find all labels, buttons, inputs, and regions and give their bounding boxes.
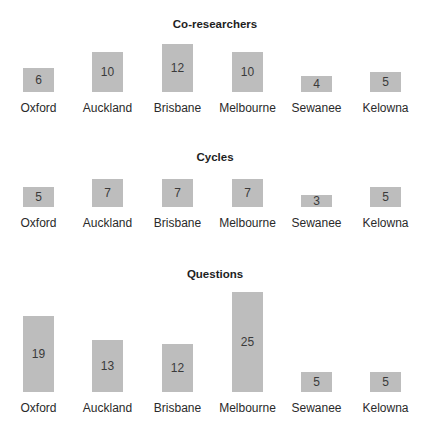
category-label: Auckland — [68, 101, 148, 115]
category-label: Melbourne — [208, 101, 288, 115]
bar-value-label: 7 — [104, 186, 111, 200]
bar: 5 — [23, 187, 54, 207]
bar: 12 — [162, 344, 193, 392]
bar: 12 — [162, 44, 193, 92]
bar-value-label: 4 — [313, 77, 320, 91]
category-label: Brisbane — [138, 101, 218, 115]
category-label: Auckland — [68, 216, 148, 230]
bar-value-label: 7 — [244, 186, 251, 200]
bar: 13 — [92, 340, 123, 392]
chart-title: Co-researchers — [0, 18, 430, 30]
bar-value-label: 5 — [382, 375, 389, 389]
bar-value-label: 10 — [101, 65, 114, 79]
bar: 6 — [23, 68, 54, 92]
bar: 19 — [23, 316, 54, 392]
bar: 10 — [232, 52, 263, 92]
bar-value-label: 12 — [171, 361, 184, 375]
chart-title: Cycles — [0, 151, 430, 163]
bar: 7 — [232, 179, 263, 207]
bar: 5 — [370, 187, 401, 207]
category-label: Melbourne — [208, 216, 288, 230]
category-label: Kelowna — [346, 101, 426, 115]
category-label: Brisbane — [138, 216, 218, 230]
bar: 5 — [370, 372, 401, 392]
bar: 10 — [92, 52, 123, 92]
bar: 3 — [301, 195, 332, 207]
category-label: Melbourne — [208, 401, 288, 415]
bar-value-label: 13 — [101, 359, 114, 373]
bar-value-label: 5 — [313, 375, 320, 389]
category-label: Kelowna — [346, 401, 426, 415]
bar: 7 — [162, 179, 193, 207]
bar: 5 — [301, 372, 332, 392]
bar: 25 — [232, 292, 263, 392]
bar: 4 — [301, 76, 332, 92]
bar-value-label: 6 — [35, 73, 42, 87]
bar-value-label: 5 — [382, 190, 389, 204]
category-label: Sewanee — [277, 101, 357, 115]
bar-value-label: 5 — [35, 190, 42, 204]
bar: 5 — [370, 72, 401, 92]
bar-value-label: 19 — [32, 347, 45, 361]
category-label: Auckland — [68, 401, 148, 415]
bar-value-label: 7 — [174, 186, 181, 200]
bar-value-label: 5 — [382, 75, 389, 89]
bar-value-label: 12 — [171, 61, 184, 75]
chart-title: Questions — [0, 268, 430, 280]
bar-value-label: 10 — [241, 65, 254, 79]
category-label: Sewanee — [277, 401, 357, 415]
bar: 7 — [92, 179, 123, 207]
category-label: Kelowna — [346, 216, 426, 230]
category-label: Sewanee — [277, 216, 357, 230]
category-label: Brisbane — [138, 401, 218, 415]
bar-value-label: 25 — [241, 335, 254, 349]
bar-value-label: 3 — [313, 194, 320, 208]
